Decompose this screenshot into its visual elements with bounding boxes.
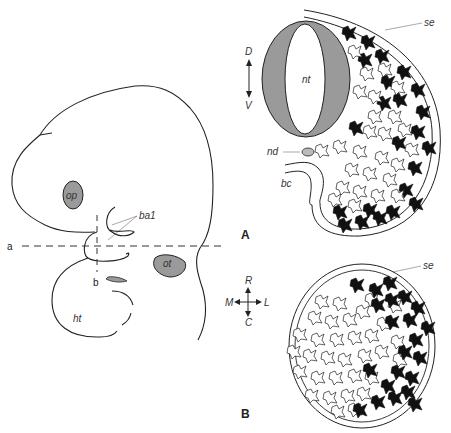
compass-arrows-icon bbox=[234, 287, 262, 317]
label-bc: bc bbox=[281, 178, 292, 189]
branchial-arches bbox=[52, 207, 134, 337]
label-b: b bbox=[93, 277, 99, 288]
panel-a-section bbox=[262, 10, 440, 236]
embryo-outline bbox=[12, 86, 213, 340]
label-ot: ot bbox=[163, 258, 173, 269]
label-nd: nd bbox=[267, 146, 279, 157]
panel-b-section bbox=[287, 264, 435, 428]
label-nt: nt bbox=[302, 74, 312, 85]
label-a: a bbox=[7, 241, 13, 252]
label-caudal: C bbox=[245, 317, 253, 328]
label-se-a: se bbox=[424, 17, 435, 28]
label-ht: ht bbox=[73, 313, 83, 324]
label-ba1: ba1 bbox=[139, 210, 156, 221]
label-rostral: R bbox=[245, 275, 252, 286]
label-se-b: se bbox=[423, 260, 434, 271]
small-gray-structure bbox=[106, 277, 127, 282]
embryo-diagram: op ba1 ot ht a b bbox=[0, 0, 451, 433]
dorsal-ventral-arrow-icon bbox=[246, 59, 252, 98]
label-dorsal: D bbox=[245, 46, 252, 57]
label-op: op bbox=[66, 190, 78, 201]
panel-label-a: A bbox=[241, 228, 250, 242]
label-ventral: V bbox=[245, 100, 253, 111]
panel-label-b: B bbox=[241, 407, 250, 421]
ba1-leaders bbox=[108, 216, 137, 240]
label-lateral: L bbox=[264, 297, 270, 308]
label-medial: M bbox=[225, 297, 234, 308]
